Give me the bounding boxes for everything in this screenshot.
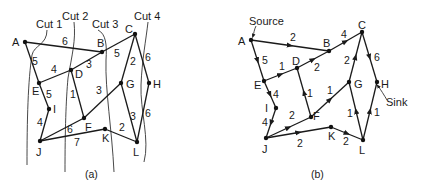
cap-i-j: 4 (37, 116, 43, 128)
source-label: Source (249, 15, 284, 27)
node-a (23, 40, 27, 44)
node-b-i (274, 106, 278, 110)
flow-k-l: 2 (343, 135, 349, 147)
caption-a: (a) (85, 168, 98, 180)
label-h: H (153, 78, 161, 90)
label-b-i: I (265, 102, 268, 114)
label-b-c: C (358, 19, 366, 31)
label-c: C (125, 23, 133, 35)
label-b-d: D (292, 55, 300, 67)
node-h (147, 81, 151, 85)
node-b-b (327, 49, 331, 53)
node-b-g (347, 80, 351, 84)
cap-d-b: 3 (86, 58, 92, 70)
edge-b-d-b (297, 51, 329, 68)
cap-a-b: 6 (62, 35, 68, 47)
label-g: G (126, 78, 135, 90)
node-b-l (361, 138, 365, 142)
flow-j-f: 2 (289, 109, 295, 121)
sink-label: Sink (386, 96, 408, 108)
cut-3-label: Cut 3 (92, 18, 118, 30)
node-b (100, 50, 104, 54)
network-flow-figure: Cut 1 Cut 2 Cut 3 Cut 4 6 5 5 (0, 0, 421, 194)
flow-i-j: 4 (262, 116, 268, 128)
node-b-j (264, 136, 268, 140)
flow-a-b: 2 (290, 31, 296, 43)
flow-f-g: 1 (327, 84, 333, 96)
node-l (135, 140, 139, 144)
label-i: I (53, 103, 56, 115)
label-b-a: A (238, 35, 246, 47)
panel-a-capacity-network: Cut 1 Cut 2 Cut 3 Cut 4 6 5 5 (12, 10, 161, 180)
flow-b-c: 4 (341, 28, 347, 40)
source-pointer (253, 26, 256, 36)
flow-l-h: 1 (374, 106, 380, 118)
flow-g-c: 2 (344, 54, 350, 66)
node-g (119, 81, 123, 85)
cap-e-i: 5 (46, 88, 52, 100)
node-f (82, 116, 86, 120)
label-a: A (12, 36, 20, 48)
flow-c-h: 6 (374, 51, 380, 63)
label-b: B (97, 37, 104, 49)
cut-4-label: Cut 4 (134, 10, 160, 22)
label-j: J (36, 146, 42, 158)
node-i (47, 107, 51, 111)
flow-j-k: 2 (297, 137, 303, 149)
label-b-f: F (313, 110, 320, 122)
flow-d-b: 2 (314, 61, 320, 73)
cap-j-f: 6 (67, 123, 73, 135)
node-d (69, 68, 73, 72)
node-c (133, 32, 137, 36)
cap-e-d: 4 (51, 63, 57, 75)
cap-j-k: 7 (74, 136, 80, 148)
cap-c-h: 6 (145, 51, 151, 63)
cap-l-h: 6 (145, 107, 151, 119)
edge-b-g-c (349, 32, 362, 82)
cap-d-f: 1 (70, 88, 76, 100)
cap-k-l: 2 (119, 121, 125, 133)
edge-f-g (84, 83, 121, 118)
label-f: F (85, 121, 92, 133)
label-b-g: G (354, 78, 363, 90)
node-b-e (262, 79, 266, 83)
label-b-e: E (254, 79, 261, 91)
label-k: K (102, 132, 110, 144)
panel-b-flow-network: 2 5 4 2 1 4 1 1 2 6 4 2 2 2 1 1 Source S… (238, 15, 408, 180)
cut-1-label: Cut 1 (36, 18, 62, 30)
label-l: L (133, 146, 139, 158)
flow-l-g: 1 (347, 107, 353, 119)
node-b-a (249, 38, 253, 42)
flow-e-d: 1 (279, 60, 285, 72)
node-j (38, 139, 42, 143)
node-labels-b: A B C D E F G H I J K L (238, 19, 389, 156)
node-k (103, 127, 107, 131)
label-b-j: J (262, 143, 268, 155)
cap-b-c: 5 (114, 47, 120, 59)
cap-f-g: 3 (96, 84, 102, 96)
label-b-b: B (323, 37, 330, 49)
caption-b: (b) (311, 168, 324, 180)
cap-a-e: 5 (32, 55, 38, 67)
cap-c-g: 2 (130, 55, 136, 67)
node-b-h (375, 80, 379, 84)
label-b-k: K (328, 130, 336, 142)
label-d: D (75, 68, 83, 80)
cap-g-l: 3 (130, 110, 136, 122)
label-b-h: H (381, 78, 389, 90)
node-b-k (329, 125, 333, 129)
flow-a-e: 5 (262, 54, 268, 66)
label-b-l: L (359, 144, 365, 156)
flow-e-i: 4 (273, 88, 279, 100)
label-e: E (32, 85, 39, 97)
flow-d-f: 1 (307, 87, 313, 99)
cut-2-label: Cut 2 (62, 10, 88, 22)
